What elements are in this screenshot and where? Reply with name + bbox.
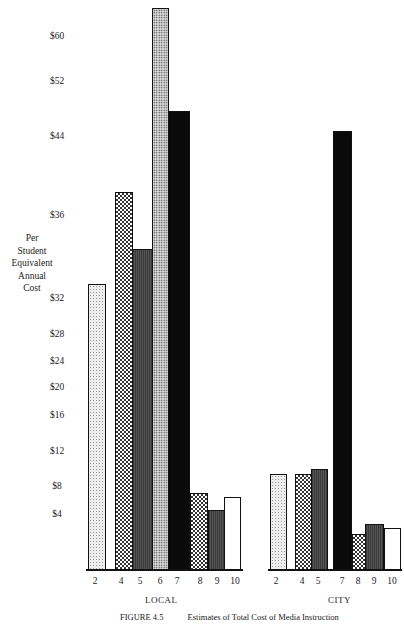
y-tick-label: $12 bbox=[40, 446, 74, 456]
bar-city-4 bbox=[295, 474, 312, 570]
bar-local-8 bbox=[190, 493, 208, 570]
x-tick-label: 10 bbox=[225, 576, 245, 586]
y-tick-label: $20 bbox=[40, 382, 74, 392]
x-tick-label: 4 bbox=[111, 576, 131, 586]
bar-local-10 bbox=[224, 497, 241, 570]
y-tick-label: $16 bbox=[40, 410, 74, 420]
y-tick-label: $24 bbox=[40, 356, 74, 366]
bar-local-7 bbox=[168, 111, 190, 570]
x-tick-label: 2 bbox=[266, 576, 286, 586]
x-tick-label: 2 bbox=[85, 576, 105, 586]
x-tick-label: 9 bbox=[364, 576, 384, 586]
y-tick-label: $60 bbox=[40, 31, 74, 41]
bar-city-2 bbox=[270, 474, 287, 570]
bar-local-2 bbox=[88, 284, 106, 570]
bar-city-10 bbox=[384, 528, 401, 570]
y-label-line: Cost bbox=[2, 282, 62, 295]
bar-city-7 bbox=[333, 131, 352, 570]
y-tick-label: $8 bbox=[40, 481, 74, 491]
y-tick-label: $4 bbox=[40, 509, 74, 519]
city-baseline bbox=[268, 569, 402, 571]
figure-caption: FIGURE 4.5 Estimates of Total Cost of Me… bbox=[120, 612, 339, 622]
y-tick-label: $52 bbox=[40, 76, 74, 86]
x-tick-label: 5 bbox=[130, 576, 150, 586]
figure-title: Estimates of Total Cost of Media Instruc… bbox=[188, 612, 339, 622]
y-tick-label: $36 bbox=[40, 210, 74, 220]
x-tick-label: 10 bbox=[382, 576, 402, 586]
bar-local-4 bbox=[115, 192, 133, 570]
y-tick-label: $28 bbox=[40, 329, 74, 339]
bar-city-8 bbox=[352, 534, 366, 570]
x-tick-label: 7 bbox=[167, 576, 187, 586]
y-tick-label: $32 bbox=[40, 293, 74, 303]
group-label-city: CITY bbox=[328, 595, 351, 605]
bar-city-9 bbox=[365, 524, 384, 570]
local-baseline bbox=[86, 569, 243, 571]
bar-local-6 bbox=[152, 8, 169, 570]
bar-local-5 bbox=[132, 249, 153, 570]
x-tick-label: 5 bbox=[308, 576, 328, 586]
x-tick-label: 9 bbox=[207, 576, 227, 586]
y-label-line: Equivalent bbox=[2, 257, 62, 270]
y-axis-label: PerStudentEquivalentAnnualCost bbox=[2, 232, 62, 295]
group-label-local: LOCAL bbox=[145, 595, 178, 605]
y-tick-label: $44 bbox=[40, 131, 74, 141]
figure-number: FIGURE 4.5 bbox=[120, 612, 163, 622]
y-label-line: Annual bbox=[2, 270, 62, 283]
y-label-line: Student bbox=[2, 245, 62, 258]
y-label-line: Per bbox=[2, 232, 62, 245]
bar-local-9 bbox=[208, 510, 225, 570]
bar-city-5 bbox=[311, 469, 328, 570]
